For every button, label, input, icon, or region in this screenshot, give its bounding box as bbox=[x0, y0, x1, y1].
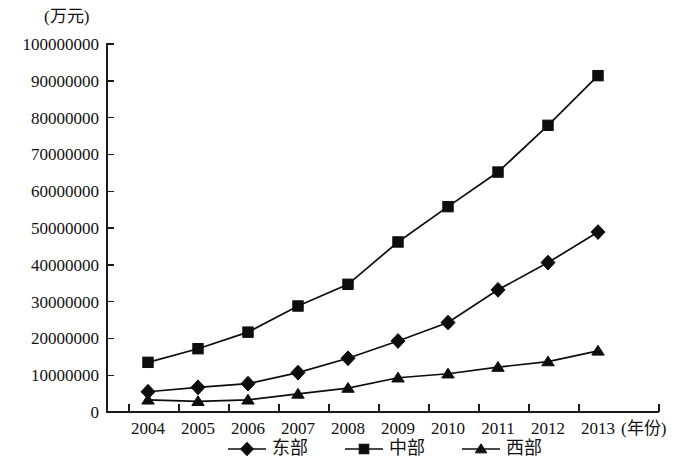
y-tick-label: 80000000 bbox=[31, 109, 99, 128]
x-tick-label: 2012 bbox=[531, 419, 565, 438]
data-point-marker-diamond bbox=[541, 255, 555, 270]
data-point-marker-square bbox=[593, 70, 603, 80]
data-point-marker-diamond bbox=[241, 376, 255, 391]
x-tick-label: 2006 bbox=[231, 419, 265, 438]
y-tick-label: 20000000 bbox=[31, 329, 99, 348]
y-tick-label: 50000000 bbox=[31, 219, 99, 238]
x-tick-label: 2009 bbox=[381, 419, 415, 438]
series-square bbox=[143, 70, 603, 367]
data-point-marker-square bbox=[293, 301, 303, 311]
data-point-marker-square bbox=[443, 201, 453, 211]
data-point-marker-square bbox=[393, 237, 403, 247]
data-point-marker-square bbox=[343, 279, 353, 289]
data-point-marker-diamond bbox=[391, 334, 405, 349]
y-tick-label: 40000000 bbox=[31, 256, 99, 275]
x-axis-ticks: 2004200520062007200820092010201120122013 bbox=[129, 404, 659, 438]
data-point-marker-diamond bbox=[441, 315, 455, 330]
series-line bbox=[148, 76, 598, 363]
y-tick-label: 30000000 bbox=[31, 293, 99, 312]
data-point-marker-diamond bbox=[591, 225, 605, 240]
data-point-marker-diamond bbox=[241, 442, 254, 456]
data-point-marker-triangle bbox=[592, 345, 604, 355]
x-tick-label: 2005 bbox=[181, 419, 215, 438]
series-line bbox=[148, 232, 598, 392]
data-point-marker-square bbox=[143, 357, 153, 367]
data-point-marker-square bbox=[193, 344, 203, 354]
y-axis-unit-label: (万元) bbox=[44, 7, 89, 26]
chart-legend: 东部中部西部 bbox=[228, 438, 542, 458]
data-point-marker-square bbox=[359, 444, 369, 454]
x-axis-unit-label: (年份) bbox=[621, 419, 666, 438]
legend-item-triangle: 西部 bbox=[462, 438, 542, 458]
chart-canvas: (万元)010000000200000003000000040000000500… bbox=[0, 0, 684, 462]
series-diamond bbox=[141, 225, 605, 400]
data-point-marker-diamond bbox=[341, 351, 355, 366]
line-chart: (万元)010000000200000003000000040000000500… bbox=[0, 0, 684, 462]
y-tick-label: 0 bbox=[91, 403, 100, 422]
x-tick-label: 2011 bbox=[481, 419, 514, 438]
x-tick-label: 2004 bbox=[131, 419, 166, 438]
legend-label: 中部 bbox=[389, 438, 425, 458]
y-tick-label: 60000000 bbox=[31, 182, 99, 201]
y-tick-label: 70000000 bbox=[31, 145, 99, 164]
legend-item-square: 中部 bbox=[345, 438, 425, 458]
y-tick-label: 90000000 bbox=[31, 72, 99, 91]
x-tick-label: 2013 bbox=[581, 419, 615, 438]
data-point-marker-diamond bbox=[491, 282, 505, 297]
legend-item-diamond: 东部 bbox=[228, 438, 308, 458]
data-point-marker-diamond bbox=[291, 365, 305, 380]
series-triangle bbox=[142, 345, 604, 405]
x-tick-label: 2010 bbox=[431, 419, 465, 438]
x-tick-label: 2007 bbox=[281, 419, 316, 438]
data-point-marker-square bbox=[493, 167, 503, 177]
x-tick-label: 2008 bbox=[331, 419, 365, 438]
legend-label: 西部 bbox=[506, 438, 542, 458]
data-point-marker-square bbox=[243, 327, 253, 337]
y-tick-label: 10000000 bbox=[31, 366, 99, 385]
data-point-marker-square bbox=[543, 120, 553, 130]
y-axis-ticks: 0100000002000000030000000400000005000000… bbox=[23, 35, 115, 422]
data-point-marker-diamond bbox=[191, 380, 205, 395]
legend-label: 东部 bbox=[272, 438, 308, 458]
y-tick-label: 100000000 bbox=[23, 35, 100, 54]
series-line bbox=[148, 351, 598, 401]
